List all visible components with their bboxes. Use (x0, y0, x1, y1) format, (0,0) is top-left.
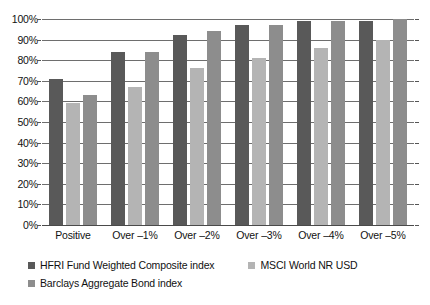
legend-row: Barclays Aggregate Bond index (28, 274, 428, 292)
axis-tick-mark (37, 225, 41, 226)
bar (83, 95, 97, 225)
bar (314, 48, 328, 225)
bar-group (166, 19, 228, 225)
bar (297, 21, 311, 225)
axis-tick-mark (415, 19, 419, 20)
legend-swatch-icon (28, 262, 35, 269)
legend-swatch-icon (28, 280, 35, 287)
bar (173, 35, 187, 225)
axis-tick-mark (415, 81, 419, 82)
legend-row: HFRI Fund Weighted Composite indexMSCI W… (28, 256, 428, 274)
bar (190, 68, 204, 225)
x-tick-label: Over –5% (352, 230, 414, 241)
bar (331, 21, 345, 225)
bar-group (228, 19, 290, 225)
axis-tick-mark (37, 40, 41, 41)
axis-tick-mark (415, 40, 419, 41)
axis-tick-mark (415, 101, 419, 102)
bar (145, 52, 159, 225)
y-tick-label: 10% (17, 199, 38, 210)
bar-group (104, 19, 166, 225)
x-tick-label: Over –2% (166, 230, 228, 241)
axis-tick-mark (37, 204, 41, 205)
legend-item[interactable]: MSCI World NR USD (248, 260, 357, 271)
bar (235, 25, 249, 225)
axis-baseline (42, 225, 414, 226)
axis-tick-mark (37, 184, 41, 185)
legend-item[interactable]: Barclays Aggregate Bond index (28, 278, 182, 289)
axis-tick-mark (37, 60, 41, 61)
legend-item[interactable]: HFRI Fund Weighted Composite index (28, 260, 214, 271)
y-tick-label: 70% (17, 76, 38, 87)
axis-tick-mark (415, 143, 419, 144)
bar (393, 19, 407, 225)
chart-legend: HFRI Fund Weighted Composite indexMSCI W… (28, 256, 428, 292)
bar (111, 52, 125, 225)
legend-label: MSCI World NR USD (260, 260, 357, 271)
bar (128, 87, 142, 225)
legend-label: Barclays Aggregate Bond index (40, 278, 182, 289)
y-tick-label: 0% (23, 220, 38, 231)
y-tick-label: 100% (12, 14, 38, 25)
x-tick-label: Over –1% (104, 230, 166, 241)
y-tick-label: 30% (17, 158, 38, 169)
bar (269, 25, 283, 225)
axis-tick-mark (37, 101, 41, 102)
y-tick-label: 60% (17, 96, 38, 107)
bar (376, 40, 390, 225)
y-axis: 0%10%20%30%40%50%60%70%80%90%100% (0, 14, 38, 226)
bar-group (352, 19, 414, 225)
bar-chart: 0%10%20%30%40%50%60%70%80%90%100% Positi… (0, 0, 430, 305)
bar (359, 21, 373, 225)
plot-area (42, 19, 414, 225)
x-tick-label: Over –4% (290, 230, 352, 241)
axis-tick-mark (37, 143, 41, 144)
bars-layer (42, 19, 414, 225)
y-tick-label: 90% (17, 34, 38, 45)
legend-label: HFRI Fund Weighted Composite index (40, 260, 214, 271)
axis-tick-mark (37, 19, 41, 20)
x-axis: PositiveOver –1%Over –2%Over –3%Over –4%… (42, 230, 414, 241)
bar (252, 58, 266, 225)
bar-group (290, 19, 352, 225)
axis-tick-mark (37, 122, 41, 123)
x-tick-label: Over –3% (228, 230, 290, 241)
axis-tick-mark (415, 122, 419, 123)
axis-tick-mark (415, 225, 419, 226)
axis-tick-mark (37, 163, 41, 164)
bar-group (42, 19, 104, 225)
x-tick-label: Positive (42, 230, 104, 241)
axis-tick-mark (415, 60, 419, 61)
bar (49, 79, 63, 225)
y-tick-label: 80% (17, 55, 38, 66)
axis-tick-mark (415, 184, 419, 185)
y-tick-label: 50% (17, 117, 38, 128)
bar (66, 103, 80, 225)
plot-wrapper: 0%10%20%30%40%50%60%70%80%90%100% Positi… (0, 0, 430, 248)
axis-tick-mark (415, 204, 419, 205)
y-tick-label: 20% (17, 179, 38, 190)
y-tick-label: 40% (17, 137, 38, 148)
bar (207, 31, 221, 225)
axis-tick-mark (415, 163, 419, 164)
legend-swatch-icon (248, 262, 255, 269)
axis-tick-mark (37, 81, 41, 82)
